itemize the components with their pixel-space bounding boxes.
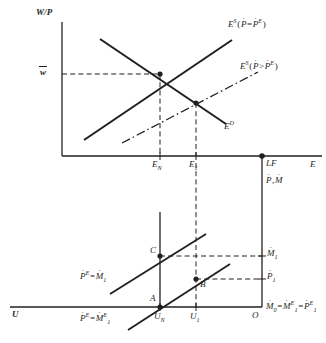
origin-label: O — [252, 311, 259, 320]
label-labour-supply-expected: ES(˙P=˙PE) — [228, 18, 266, 29]
tick-label-e1: E1 — [189, 160, 198, 171]
curve-labour-supply-surprise — [122, 72, 258, 143]
upper-y-axis-label: W/P — [36, 8, 52, 17]
lower-x-axis-label: U — [12, 310, 19, 319]
point-short-run-equilibrium — [193, 100, 198, 105]
tick-label-un: UN — [154, 312, 165, 323]
upper-x-axis-label: E — [310, 160, 316, 169]
tick-label-mdot1: ˙M1 — [267, 249, 278, 260]
label-phillips-upper: ˙PE=˙M1 — [80, 270, 107, 283]
curve-phillips-upper — [110, 234, 206, 294]
label-full-employment: LF — [266, 159, 277, 168]
curve-labour-demand — [100, 39, 226, 124]
label-baseline-growth: ˙M0=˙ME1=˙PE1 — [266, 300, 317, 313]
right-axis-label: ˙P,˙M — [266, 176, 283, 185]
tick-label-u1: U1 — [190, 312, 200, 323]
label-labour-demand: ED — [224, 120, 234, 131]
economics-figure: W/P w ES(˙P=˙PE) ES(˙P>˙PE) ED EN E1 LF … — [0, 0, 326, 343]
point-B — [193, 276, 198, 281]
point-natural-equilibrium — [157, 71, 162, 76]
label-labour-supply-surprise: ES(˙P>˙PE) — [240, 60, 278, 71]
tick-label-en: EN — [152, 160, 162, 171]
figure-canvas — [0, 0, 326, 343]
point-label-B: B — [200, 280, 206, 289]
point-label-A: A — [150, 294, 156, 303]
point-label-C: C — [150, 246, 156, 255]
label-phillips-lower: ˙PE=˙ME1 — [80, 312, 110, 325]
wbar-label: w — [40, 68, 46, 77]
tick-label-pdot1: ˙P1 — [267, 272, 276, 283]
curve-labour-supply-expected — [84, 40, 232, 140]
point-C — [157, 253, 162, 258]
